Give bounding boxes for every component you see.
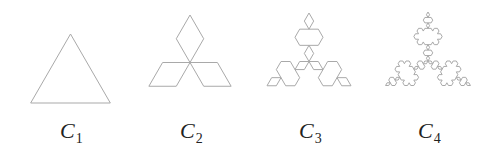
label-c4: C4 xyxy=(418,118,441,144)
curve-c2 xyxy=(149,15,231,86)
curve-c1 xyxy=(31,34,111,103)
curve-c3 xyxy=(267,13,351,86)
label-c3: C3 xyxy=(299,118,322,144)
label-c1: C1 xyxy=(60,118,83,144)
label-c2: C2 xyxy=(180,118,203,144)
curve-c4 xyxy=(386,12,471,86)
